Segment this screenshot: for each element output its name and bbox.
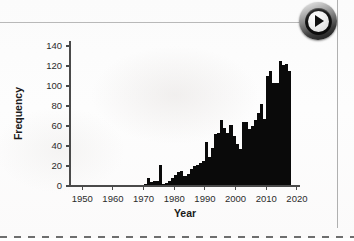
- histogram-bar: [242, 122, 245, 186]
- histogram-bar: [263, 119, 266, 186]
- histogram-bar: [282, 65, 285, 186]
- histogram-bar: [196, 165, 199, 186]
- histogram-bar: [156, 181, 159, 186]
- histogram-bar: [159, 165, 162, 186]
- x-tick-label: 1980: [164, 193, 185, 204]
- x-tick-label: 1990: [194, 193, 215, 204]
- histogram-bar: [245, 122, 248, 186]
- histogram-bar: [223, 128, 226, 186]
- histogram-bar: [269, 71, 272, 186]
- y-tick-label: 80: [51, 100, 62, 111]
- y-tick-label: 0: [57, 180, 62, 191]
- histogram-bar: [147, 178, 150, 186]
- histogram-bar: [251, 126, 254, 186]
- histogram-bar: [279, 61, 282, 186]
- histogram-bar: [171, 178, 174, 186]
- histogram-bar: [260, 104, 263, 186]
- bars-group: [91, 61, 290, 186]
- right-divider-rule: [337, 0, 338, 228]
- histogram-bar: [229, 125, 232, 186]
- histogram-bar: [193, 166, 196, 186]
- histogram-bar: [214, 134, 217, 186]
- histogram-bar: [199, 163, 202, 186]
- y-tick-label: 100: [46, 80, 62, 91]
- x-tick-label: 1970: [133, 193, 154, 204]
- y-axis-ticks: 020406080100120140: [46, 40, 70, 191]
- histogram-bar: [174, 175, 177, 186]
- y-axis-title: Frequency: [12, 87, 24, 140]
- histogram-bar: [187, 174, 190, 186]
- x-tick-label: 2020: [286, 193, 307, 204]
- x-tick-label: 1950: [72, 193, 93, 204]
- x-axis-title: Year: [174, 207, 196, 219]
- histogram-bar: [153, 181, 156, 186]
- histogram-bar: [288, 71, 291, 186]
- y-tick-label: 40: [51, 140, 62, 151]
- histogram-bar: [180, 171, 183, 186]
- histogram-bar: [177, 172, 180, 186]
- histogram-bar: [275, 83, 278, 186]
- histogram-bar: [257, 113, 260, 186]
- histogram-bar: [233, 136, 236, 186]
- histogram-bar: [217, 133, 220, 186]
- histogram-chart: 0204060801001201401950196019701980199020…: [0, 22, 337, 228]
- histogram-bar: [248, 129, 251, 186]
- histogram-bar: [150, 182, 153, 186]
- bottom-dashed-border: [0, 236, 354, 238]
- histogram-bar: [168, 181, 171, 186]
- histogram-bar: [266, 76, 269, 186]
- x-tick-label: 2010: [256, 193, 277, 204]
- histogram-bar: [236, 144, 239, 186]
- y-tick-label: 140: [46, 40, 62, 51]
- y-tick-label: 120: [46, 60, 62, 71]
- x-tick-label: 2000: [225, 193, 246, 204]
- x-tick-label: 1960: [102, 193, 123, 204]
- histogram-bar: [254, 120, 257, 186]
- histogram-svg: 0204060801001201401950196019701980199020…: [0, 22, 337, 228]
- histogram-bar: [190, 169, 193, 186]
- histogram-bar: [226, 133, 229, 186]
- y-tick-label: 20: [51, 160, 62, 171]
- histogram-bar: [220, 120, 223, 186]
- histogram-bar: [272, 83, 275, 186]
- histogram-bar: [202, 161, 205, 186]
- y-tick-label: 60: [51, 120, 62, 131]
- x-axis-ticks: 19501960197019801990200020102020: [72, 186, 308, 204]
- histogram-bar: [205, 142, 208, 186]
- histogram-bar: [183, 176, 186, 186]
- histogram-bar: [208, 157, 211, 186]
- histogram-bar: [211, 148, 214, 186]
- histogram-bar: [239, 149, 242, 186]
- screenshot-root: 0204060801001201401950196019701980199020…: [0, 0, 354, 241]
- histogram-bar: [285, 64, 288, 186]
